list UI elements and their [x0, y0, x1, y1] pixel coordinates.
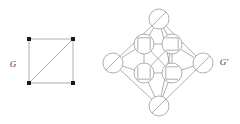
graph-label-g-prime: G' — [220, 57, 229, 67]
graph-label-g: G — [10, 59, 17, 69]
label-layer: G G' — [0, 0, 240, 124]
graph-figure: G G' — [0, 0, 240, 124]
